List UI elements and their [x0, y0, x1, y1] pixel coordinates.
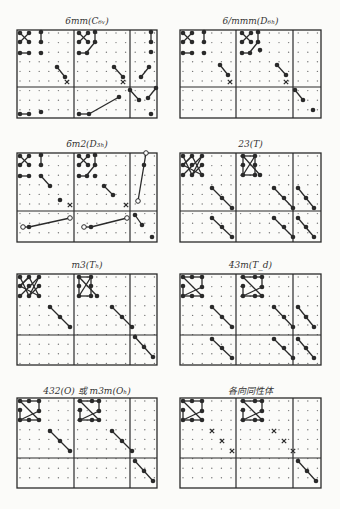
symmetry-panel-isotropic: [180, 398, 321, 488]
symmetry-panel--43m: [180, 274, 321, 365]
symmetry-panel-6mm: [17, 30, 157, 118]
matrix-diagram: [17, 153, 157, 242]
panel-title: 4̄3m(T_d): [180, 260, 321, 270]
panel-title: m3(Tₕ): [17, 260, 157, 270]
matrix-diagram: [17, 30, 157, 118]
matrix-diagram: [17, 398, 157, 488]
panel-title: 6̄m2(D₃ₕ): [17, 139, 157, 149]
matrix-diagram: [180, 398, 321, 488]
symmetry-panel-23: [180, 153, 321, 242]
panel-title: 各向同性体: [180, 384, 321, 397]
matrix-diagram: [180, 30, 321, 118]
panel-title: 432(O) 或 m3m(Oₕ): [17, 384, 157, 397]
panel-title: 23(T): [180, 139, 321, 149]
symmetry-panel--6m2: [17, 153, 157, 242]
matrix-diagram: [180, 153, 321, 242]
panel-title: 6/mmm(D₆ₕ): [180, 16, 321, 26]
matrix-diagram: [180, 274, 321, 365]
symmetry-panel-m3: [17, 274, 157, 365]
symmetry-panel-6/mmm: [180, 30, 321, 118]
panel-title: 6mm(C₆ᵥ): [17, 16, 157, 26]
symmetry-panel-432: [17, 398, 157, 488]
matrix-diagram: [17, 274, 157, 365]
